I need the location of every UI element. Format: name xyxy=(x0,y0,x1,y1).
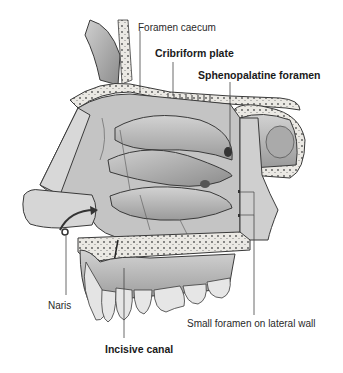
maxilla-teeth xyxy=(80,250,235,322)
label-incisive-canal: Incisive canal xyxy=(105,343,173,355)
nose-ala xyxy=(23,190,98,235)
label-small-foramen: Small foramen on lateral wall xyxy=(187,318,315,329)
sphenopalatine-foramen-hole xyxy=(224,147,232,157)
label-cribriform-plate: Cribriform plate xyxy=(155,47,234,59)
label-sphenopalatine-foramen: Sphenopalatine foramen xyxy=(198,69,321,81)
naris-ring xyxy=(62,229,68,235)
label-naris: Naris xyxy=(48,300,71,311)
frontal-bone xyxy=(85,20,132,85)
label-foramen-caecum: Foramen caecum xyxy=(138,22,216,33)
